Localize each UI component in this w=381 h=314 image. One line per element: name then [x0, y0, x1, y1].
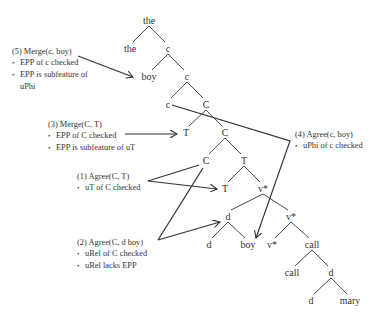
tree-node-mary: mary [340, 295, 361, 306]
annotation-title: (3) Merge(C, T) [48, 119, 135, 130]
tree-edge [244, 166, 260, 182]
tree-node-c1: c [166, 43, 170, 54]
tree-node-call2: call [285, 267, 299, 278]
tree-edge [314, 278, 331, 294]
tree-node-T3: T [222, 183, 228, 194]
syntax-tree-diagram: thethecboyccCTCCTTv*dv*dboyv*callcallddm… [0, 0, 381, 314]
tree-node-v2: v* [286, 211, 296, 222]
annotation-note4: (4) Agree(c, boy)uPhi of c checked [295, 129, 363, 152]
tree-node-call1: call [305, 239, 319, 250]
annotation-bullet: uPhi of c checked [295, 140, 363, 152]
annotation-bullet: uRel of C checked [77, 248, 147, 260]
annotation-bullet: EPP of C checked [48, 130, 135, 142]
annotation-title: (2) Agree(C, d boy) [77, 237, 147, 248]
tree-node-the: the [124, 43, 136, 54]
tree-node-C1: C [203, 99, 210, 110]
annotation-title: (1) Agree(C, T) [77, 171, 140, 182]
tree-node-T1: T [183, 127, 189, 138]
tree-edge [209, 138, 225, 154]
annotation-note3: (3) Merge(C, T)EPP of C checkedEPP is su… [48, 119, 135, 154]
tree-node-c3: c [166, 99, 170, 110]
tree-edge [187, 82, 203, 98]
tree-edge [168, 54, 184, 70]
tree-edge [152, 54, 168, 70]
annotation-note2: (2) Agree(C, d boy)uRel of C checkeduRel… [77, 237, 147, 272]
tree-node-v1: v* [258, 183, 268, 194]
tree-node-d4: d [309, 295, 314, 306]
tree-node-the_root: the [143, 15, 155, 26]
tree-node-d3: d [329, 267, 334, 278]
tree-node-boy1: boy [142, 71, 157, 82]
annotation-bullet: uRel lacks EPP [77, 260, 147, 272]
tree-edge [225, 138, 241, 154]
tree-node-C2: C [222, 127, 229, 138]
annotation-bullet: EPP is subfeature of [12, 69, 88, 81]
annotation-title: (5) Merge(c, boy) [12, 46, 88, 57]
annotation-bullet: EPP is subfeature of uT [48, 142, 135, 154]
annotation-note5: (5) Merge(c, boy)EPP of c checkedEPP is … [12, 46, 88, 92]
tree-edge [295, 250, 312, 266]
tree-edge [212, 222, 228, 238]
arrow1b-connector [148, 181, 217, 189]
tree-edge [291, 222, 309, 238]
annotation-title: (4) Agree(c, boy) [295, 129, 363, 140]
tree-node-d2: d [207, 239, 212, 250]
tree-edge [331, 278, 347, 294]
annotation-bullet: EPP of c checked [12, 57, 88, 69]
tree-node-v3: v* [267, 239, 277, 250]
tree-edge [171, 82, 187, 98]
tree-edge [231, 194, 263, 210]
tree-edge [275, 222, 291, 238]
tree-edge [228, 166, 244, 182]
tree-node-boy2: boy [241, 239, 256, 250]
annotation-bullet: uT of C checked [77, 182, 140, 194]
tree-node-C3: C [203, 155, 210, 166]
tree-edge [149, 26, 165, 42]
annotation-note1: (1) Agree(C, T)uT of C checked [77, 171, 140, 194]
tree-edge [228, 222, 245, 238]
tree-node-T2: T [241, 155, 247, 166]
tree-node-d1: d [226, 211, 231, 222]
line1a-connector [148, 165, 199, 181]
tree-node-c2: c [185, 71, 189, 82]
tree-edge [312, 250, 328, 266]
tree-edge [133, 26, 149, 42]
annotation-continuation: uPhi [12, 81, 88, 92]
